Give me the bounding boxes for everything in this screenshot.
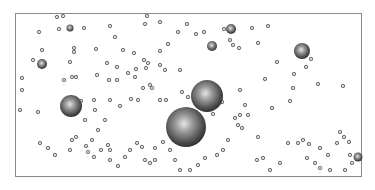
sphere bbox=[166, 42, 169, 45]
sphere bbox=[46, 146, 49, 149]
sphere bbox=[238, 88, 241, 91]
sphere bbox=[82, 26, 85, 29]
sphere bbox=[142, 58, 145, 61]
sphere bbox=[128, 148, 131, 151]
large-sphere bbox=[166, 107, 206, 147]
small-spheres bbox=[18, 14, 353, 171]
sphere bbox=[68, 148, 71, 151]
sphere bbox=[240, 126, 243, 129]
sphere bbox=[238, 113, 241, 116]
sphere bbox=[263, 77, 266, 80]
large-sphere bbox=[226, 24, 236, 34]
sphere bbox=[62, 78, 65, 81]
sphere bbox=[86, 150, 89, 153]
sphere bbox=[68, 60, 71, 63]
sphere bbox=[106, 143, 109, 146]
sphere bbox=[92, 155, 95, 158]
sphere bbox=[250, 26, 253, 29]
sphere bbox=[342, 135, 345, 138]
sphere bbox=[307, 142, 310, 145]
sphere bbox=[163, 68, 166, 71]
sphere bbox=[140, 145, 143, 148]
sphere bbox=[143, 22, 146, 25]
particle-scene bbox=[0, 0, 375, 190]
sphere bbox=[148, 161, 151, 164]
sphere bbox=[222, 27, 225, 30]
sphere bbox=[141, 86, 144, 89]
sphere bbox=[318, 166, 321, 169]
sphere bbox=[105, 61, 108, 64]
sphere bbox=[341, 84, 344, 87]
sphere bbox=[231, 43, 234, 46]
sphere bbox=[186, 95, 189, 98]
sphere bbox=[70, 138, 73, 141]
large-spheres bbox=[37, 24, 363, 162]
sphere bbox=[108, 148, 111, 151]
sphere bbox=[132, 51, 135, 54]
sphere bbox=[180, 90, 183, 93]
sphere bbox=[121, 48, 124, 51]
sphere bbox=[74, 75, 77, 78]
sphere bbox=[338, 130, 341, 133]
sphere bbox=[38, 141, 41, 144]
sphere bbox=[20, 88, 23, 91]
sphere bbox=[275, 60, 278, 63]
sphere bbox=[335, 141, 338, 144]
sphere bbox=[108, 98, 111, 101]
sphere bbox=[31, 58, 34, 61]
sphere bbox=[70, 75, 73, 78]
sphere bbox=[146, 61, 149, 64]
sphere bbox=[316, 82, 319, 85]
sphere bbox=[144, 66, 147, 69]
sphere bbox=[164, 98, 167, 101]
sphere bbox=[194, 32, 197, 35]
sphere bbox=[347, 140, 350, 143]
sphere bbox=[158, 20, 161, 23]
sphere bbox=[256, 135, 259, 138]
sphere bbox=[255, 158, 258, 161]
large-sphere bbox=[294, 43, 310, 59]
sphere bbox=[55, 15, 58, 18]
sphere bbox=[318, 146, 321, 149]
sphere bbox=[115, 65, 118, 68]
sphere bbox=[150, 86, 153, 89]
large-sphere bbox=[37, 59, 47, 69]
sphere bbox=[129, 97, 132, 100]
sphere bbox=[18, 108, 21, 111]
sphere bbox=[343, 168, 346, 171]
sphere bbox=[84, 144, 87, 147]
sphere bbox=[153, 158, 156, 161]
sphere bbox=[158, 63, 161, 66]
sphere bbox=[158, 98, 161, 101]
sphere bbox=[237, 46, 240, 49]
sphere bbox=[133, 75, 136, 78]
sphere bbox=[72, 50, 75, 53]
sphere bbox=[291, 86, 294, 89]
sphere bbox=[288, 99, 291, 102]
sphere bbox=[103, 118, 106, 121]
sphere bbox=[135, 141, 138, 144]
sphere bbox=[236, 123, 239, 126]
sphere bbox=[178, 68, 181, 71]
sphere bbox=[136, 98, 139, 101]
sphere bbox=[99, 148, 102, 151]
sphere bbox=[96, 128, 99, 131]
sphere bbox=[178, 168, 181, 171]
sphere bbox=[116, 164, 119, 167]
sphere bbox=[72, 46, 75, 49]
sphere bbox=[57, 27, 60, 30]
sphere bbox=[134, 67, 137, 70]
sphere bbox=[286, 141, 289, 144]
sphere bbox=[95, 73, 98, 76]
sphere bbox=[296, 141, 299, 144]
large-sphere bbox=[191, 80, 223, 112]
sphere bbox=[246, 113, 249, 116]
sphere bbox=[266, 24, 269, 27]
sphere bbox=[256, 41, 259, 44]
large-sphere bbox=[67, 25, 74, 32]
sphere bbox=[328, 168, 331, 171]
sphere bbox=[326, 153, 329, 156]
sphere bbox=[228, 38, 231, 41]
sphere bbox=[108, 24, 111, 27]
sphere bbox=[90, 138, 93, 141]
